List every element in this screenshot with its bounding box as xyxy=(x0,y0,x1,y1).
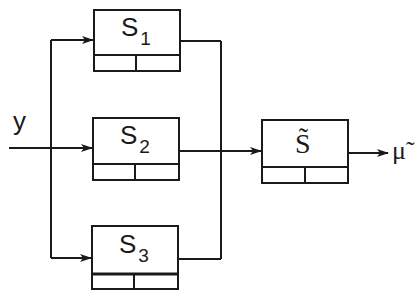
block-diagram xyxy=(0,0,416,300)
input-label: y xyxy=(13,108,26,134)
output-label: μ̃ xyxy=(392,138,406,164)
block-s3-label: S3 xyxy=(119,231,149,265)
block-s2-label: S2 xyxy=(120,122,150,156)
block-s1-label: S1 xyxy=(121,14,151,48)
block-s-tilde-label: S̃ xyxy=(295,130,311,158)
